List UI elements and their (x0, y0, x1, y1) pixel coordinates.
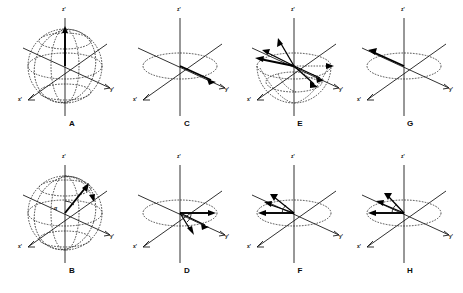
z-axis-label: z' (62, 153, 66, 159)
magnetization-vector (373, 52, 404, 66)
isochromat-arrowhead-5 (310, 81, 318, 88)
z-axis-label: z' (401, 153, 405, 159)
panel-a: z' x' y' (10, 8, 120, 123)
x-axis-arrowhead (257, 94, 264, 100)
y-axis-label: y' (339, 86, 343, 92)
panel-g: z' x' y' (348, 8, 460, 123)
z-axis-label: z' (401, 6, 405, 12)
y-axis-label: y' (339, 233, 343, 239)
isochromat-vector-1 (260, 59, 294, 66)
x-axis-label: x' (133, 243, 137, 249)
panel-f: z' x' y' (238, 155, 350, 270)
panel-a-graphic (10, 8, 120, 123)
z-axis-label: z' (62, 6, 66, 12)
x-axis (143, 191, 222, 247)
nutation-arc-arrowhead (89, 194, 95, 202)
x-axis-label: x' (357, 96, 361, 102)
panel-c: z' x' y' (125, 8, 235, 123)
isochromat-arrowhead-1 (368, 210, 376, 216)
z-axis-label: z' (177, 6, 181, 12)
panel-letter-g: G (400, 119, 420, 128)
x-axis (28, 191, 107, 247)
panel-g-graphic (348, 8, 460, 123)
x-axis (28, 44, 107, 100)
x-axis-label: x' (18, 96, 22, 102)
panel-c-graphic (125, 8, 235, 123)
y-axis-label: y' (110, 86, 114, 92)
panel-e-graphic (238, 8, 350, 123)
panel-f-graphic (238, 155, 350, 270)
isochromat-vector-3 (274, 197, 294, 213)
x-axis-arrowhead (257, 241, 264, 247)
z-axis-label: z' (291, 6, 295, 12)
x-axis-label: x' (247, 243, 251, 249)
z-axis-label: z' (177, 153, 181, 159)
panel-d-graphic (125, 155, 235, 270)
x-axis (143, 44, 222, 100)
panel-e: z' x' y' (238, 8, 350, 123)
panel-letter-e: E (290, 119, 310, 128)
dashed-trajectory-arrowhead (326, 63, 334, 69)
magnetization-vector (180, 66, 211, 80)
panel-d: z' x' y' (125, 155, 235, 270)
y-axis-label: y' (225, 86, 229, 92)
panel-letter-b: B (62, 266, 82, 275)
panel-letter-a: A (62, 119, 82, 128)
x-axis-arrowhead (367, 241, 374, 247)
x-axis (367, 191, 446, 247)
panel-letter-d: D (177, 266, 197, 275)
flip-angle-label: α (54, 205, 57, 211)
panel-h: z' x' y' (348, 155, 460, 270)
y-axis-label: y' (225, 233, 229, 239)
x-axis-arrowhead (143, 241, 150, 247)
x-axis-label: x' (357, 243, 361, 249)
x-axis (257, 191, 336, 247)
isochromat-vector-2 (268, 204, 294, 213)
panel-letter-c: C (177, 119, 197, 128)
magnetization-arrowhead (207, 79, 216, 85)
x-axis-arrowhead (28, 94, 35, 100)
x-axis-arrowhead (143, 94, 150, 100)
panel-h-graphic (348, 155, 460, 270)
y-axis-label: y' (110, 233, 114, 239)
x-axis (367, 44, 446, 100)
z-axis-label: z' (291, 153, 295, 159)
x-axis-label: x' (18, 243, 22, 249)
panel-letter-f: F (290, 266, 310, 275)
isochromat-arrowhead-1 (208, 210, 216, 216)
x-axis-label: x' (133, 96, 137, 102)
x-axis-label: x' (247, 96, 251, 102)
panel-letter-h: H (400, 266, 420, 275)
isochromat-arrowhead-2 (264, 201, 272, 207)
x-axis-arrowhead (28, 241, 35, 247)
panel-b: z' x' y' α (10, 155, 120, 270)
figure-canvas: z' x' y' A z' x' y' C (0, 0, 463, 293)
isochromat-arrowhead-1 (258, 210, 266, 216)
y-axis-label: y' (449, 86, 453, 92)
isochromat-arrowhead-2 (376, 200, 384, 206)
panel-b-graphic (10, 155, 120, 270)
y-axis-label: y' (449, 233, 453, 239)
x-axis-arrowhead (367, 94, 374, 100)
